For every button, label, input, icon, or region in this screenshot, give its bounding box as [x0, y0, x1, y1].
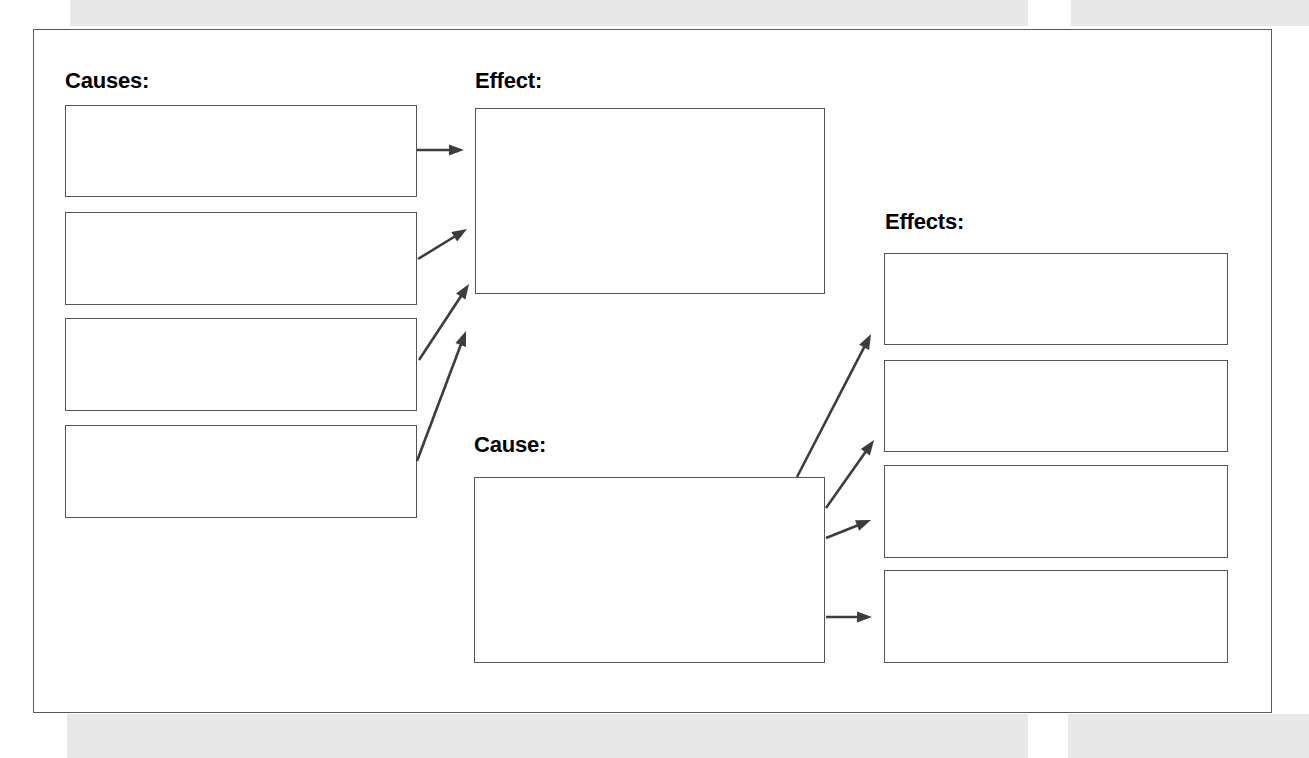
scan-shadow-band-top-left	[70, 0, 1028, 26]
effect-box-1[interactable]	[884, 253, 1228, 345]
worksheet-page: Causes: Effect: Cause: Effects:	[0, 0, 1309, 758]
scan-shadow-band-bottom-left	[67, 714, 1028, 758]
cause-box-1[interactable]	[65, 105, 417, 197]
scan-shadow-band-bottom-right	[1068, 714, 1309, 758]
cause-big-box[interactable]	[474, 477, 825, 663]
cause-box-3[interactable]	[65, 318, 417, 411]
effect-box[interactable]	[475, 108, 825, 294]
effect-box-4[interactable]	[884, 570, 1228, 663]
scan-shadow-band-top-right	[1071, 0, 1309, 26]
effects-section-label: Effects:	[885, 211, 964, 233]
effect-section-label: Effect:	[475, 70, 542, 92]
causes-section-label: Causes:	[65, 70, 149, 92]
cause-section-label: Cause:	[474, 434, 546, 456]
effect-box-2[interactable]	[884, 360, 1228, 452]
cause-box-4[interactable]	[65, 425, 417, 518]
cause-box-2[interactable]	[65, 212, 417, 305]
effect-box-3[interactable]	[884, 465, 1228, 558]
